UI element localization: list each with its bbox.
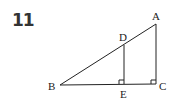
label-c: C bbox=[159, 80, 166, 92]
segment-ab bbox=[60, 24, 156, 85]
segment-bc bbox=[60, 84, 156, 85]
label-d: D bbox=[119, 31, 127, 43]
right-angle-mark-e bbox=[119, 80, 124, 84]
right-angle-mark-c bbox=[151, 80, 156, 84]
label-b: B bbox=[48, 80, 55, 92]
triangle-diagram: A D B E C bbox=[0, 0, 176, 101]
label-e: E bbox=[120, 88, 127, 100]
label-a: A bbox=[152, 10, 160, 22]
